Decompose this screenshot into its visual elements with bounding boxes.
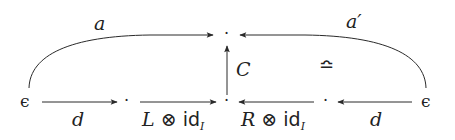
node-left-epsilon: ϵ [20,93,30,110]
node-mid-left-dot: · [124,93,129,109]
label-a-prime: a′ [346,12,362,31]
label-c: C [236,60,251,79]
label-a: a [94,14,105,33]
label-d-right: d [370,110,382,129]
label-d-left: d [72,110,84,129]
tensor-symbol: ⊗ [261,108,277,130]
node-mid-right-dot: · [323,93,328,109]
label-id: id [183,108,200,130]
label-subscript-i: I [200,120,204,133]
diagram-arrows [0,0,455,140]
equivalence-symbol: ≏ [319,56,334,74]
tensor-symbol: ⊗ [161,108,177,130]
label-subscript-i: I [301,120,305,133]
label-l: L [142,108,155,130]
node-center-bottom-dot: · [224,93,229,109]
node-right-epsilon: ϵ [421,93,431,110]
node-top-dot: · [224,26,229,42]
label-id: id [283,108,300,130]
label-r: R [241,108,255,130]
arrow-a [29,35,213,88]
label-l-tensor-id: L ⊗ idI [142,110,204,129]
commutative-diagram: ϵ · · · ϵ · a a′ d L ⊗ idI R ⊗ idI d C ≏ [0,0,455,140]
label-r-tensor-id: R ⊗ idI [241,110,305,129]
